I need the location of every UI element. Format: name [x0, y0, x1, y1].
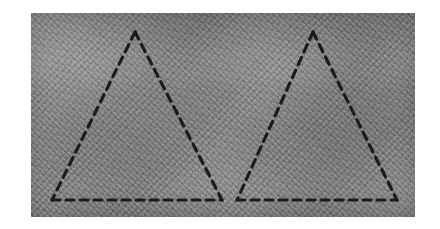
surface-weave-diagonal-a	[31, 13, 415, 217]
right-triangle-left-edge	[237, 32, 313, 200]
left-triangle-right-edge	[135, 32, 222, 200]
left-triangle-left-edge	[52, 32, 135, 200]
surface-grain-a	[31, 13, 415, 217]
right-triangle-right-edge	[313, 32, 397, 200]
surface-weave-diagonal-b	[31, 13, 415, 217]
surface-vignette	[31, 13, 415, 217]
surface-lighting-bands	[31, 13, 415, 217]
annotation-strokes	[52, 32, 397, 200]
dashed-triangle-overlay	[31, 13, 415, 217]
surface-mottling	[31, 13, 415, 217]
surface-grain-b	[31, 13, 415, 217]
textured-surface-photo	[31, 13, 415, 217]
image-canvas	[0, 0, 440, 229]
